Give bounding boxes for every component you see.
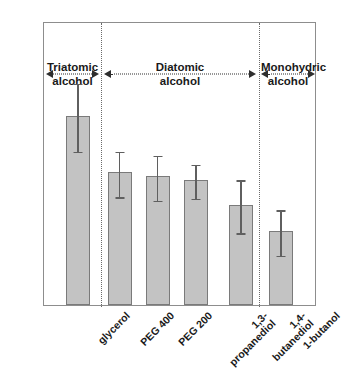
error-cap-lower	[153, 201, 162, 202]
x-tick-label-glycerol: glycerol	[96, 310, 132, 346]
error-bar-peg-200	[157, 156, 158, 201]
error-cap-lower	[192, 199, 201, 200]
error-bar-1-4-butanediol	[240, 180, 241, 233]
group-separator-1	[101, 23, 102, 307]
error-bar-1-butanol	[280, 210, 281, 255]
group-label-bottom-3: alcohol	[261, 75, 315, 87]
error-bar-1-3-propanediol	[195, 165, 196, 199]
x-tick-label-peg-200: PEG 200	[176, 310, 214, 348]
error-cap-upper	[74, 84, 83, 85]
group-label-bottom-2: alcohol	[104, 75, 256, 87]
error-cap-upper	[192, 165, 201, 166]
group-label-top-2: Diatomic	[104, 61, 256, 73]
group-annotation-diatomic: Diatomic alcohol	[104, 51, 256, 97]
error-cap-lower	[74, 152, 83, 153]
error-cap-upper	[153, 156, 162, 157]
error-cap-lower	[115, 197, 124, 198]
error-cap-upper	[277, 210, 286, 211]
error-cap-lower	[237, 233, 246, 234]
plot-area: Triatomic alcohol Diatomic alcohol Monoh…	[43, 22, 316, 306]
x-tick-label-peg-400: PEG 400	[138, 310, 176, 348]
group-label-top-3: Monohydric	[261, 61, 315, 73]
error-cap-upper	[237, 180, 246, 181]
group-separator-2	[259, 23, 260, 307]
group-annotation-triatomic: Triatomic alcohol	[46, 51, 99, 97]
error-cap-upper	[115, 152, 124, 153]
error-bar-glycerol	[77, 84, 78, 152]
group-label-bottom-1: alcohol	[46, 75, 99, 87]
x-tick-label-1-3-propanediol: 1,3-propanediol	[220, 310, 278, 368]
error-cap-lower	[277, 256, 286, 257]
error-bar-peg-400	[119, 152, 120, 197]
group-annotation-monohydric: Monohydric alcohol	[261, 51, 315, 97]
